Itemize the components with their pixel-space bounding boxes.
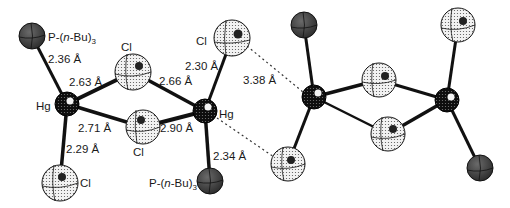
atom-cl-terminal-bottom xyxy=(42,165,78,201)
label-cl-terminal-bottom: Cl xyxy=(80,177,91,189)
atom-hg-left xyxy=(55,92,79,116)
intermolecular-contacts xyxy=(217,46,303,157)
label-dist-hg-cl-terminal-top: 2.30 Å xyxy=(185,60,219,72)
atom-m2-hg-right xyxy=(435,88,459,112)
label-cl-terminal-top: Cl xyxy=(196,35,207,47)
label-hg-left: Hg xyxy=(36,100,51,112)
atom-p-top-left xyxy=(19,23,45,49)
label-dist-hg-cl-terminal-bottom: 2.29 Å xyxy=(66,143,100,155)
atom-m2-cl-bridge-bottom xyxy=(371,117,405,151)
label-cl-bridge-top: Cl xyxy=(121,41,132,53)
molecular-structure-diagram: P-(n-Bu)3 2.36 Å Cl 2.63 Å 2.66 Å Cl 2.3… xyxy=(0,0,510,208)
label-dist-hg-p-left: 2.36 Å xyxy=(48,53,82,65)
molecule-1-atoms xyxy=(19,20,250,201)
atom-m2-p-top xyxy=(291,12,317,38)
label-dist-hg-cl-bridge-top-left: 2.63 Å xyxy=(69,76,103,88)
atom-cl-bridge-bottom xyxy=(126,110,160,144)
atom-p-bottom-right xyxy=(197,168,223,194)
atom-cl-bridge-top xyxy=(115,54,151,90)
atom-m2-p-bottom-right xyxy=(467,155,493,181)
atom-m2-cl-bridge-top xyxy=(362,63,396,97)
molecule-2-atoms xyxy=(271,8,493,181)
label-p-top-left: P-(n-Bu)3 xyxy=(48,31,96,46)
atom-hg-right xyxy=(193,99,217,123)
atom-m2-hg-left xyxy=(302,85,326,109)
label-hg-right: Hg xyxy=(219,108,234,120)
atom-m2-cl-bottom-left xyxy=(271,147,305,181)
label-dist-intermolecular: 3.38 Å xyxy=(243,74,277,86)
atom-cl-terminal-top xyxy=(214,20,250,56)
atom-m2-cl-top-right xyxy=(441,8,475,42)
label-dist-hg-p-right: 2.34 Å xyxy=(213,150,247,162)
label-dist-hg-cl-bridge-top-right: 2.66 Å xyxy=(159,75,193,87)
label-p-bottom-right: P-(n-Bu)3 xyxy=(149,177,197,192)
label-dist-hg-cl-bridge-bottom-left: 2.71 Å xyxy=(78,122,112,134)
label-dist-hg-cl-bridge-bottom-right: 2.90 Å xyxy=(160,122,194,134)
label-cl-bridge-bottom: Cl xyxy=(133,146,144,158)
